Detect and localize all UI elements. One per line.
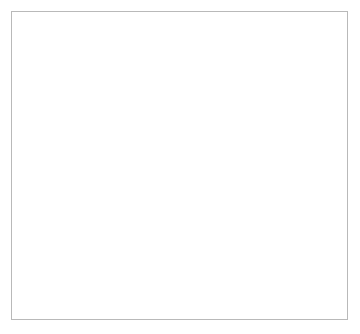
figure-frame-border — [11, 11, 348, 320]
chart-figure: 020406080 19701975198019851990 % Aid/DED… — [0, 0, 360, 334]
